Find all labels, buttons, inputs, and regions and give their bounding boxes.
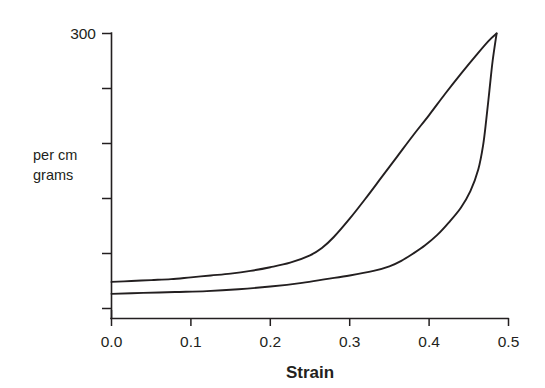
x-tick-label-0: 0.0 [101,333,123,350]
x-tick-label-3: 0.3 [339,333,361,350]
x-tick-label-4: 0.4 [418,333,440,350]
x-axis-title: Strain [286,363,334,382]
y-axis-title-line1: per cm [33,147,77,163]
y-tick-label-300: 300 [70,25,96,42]
chart-container: 300 per cm grams 0.0 0.1 0.2 0.3 0.4 0.5… [0,0,545,388]
x-tick-label-1: 0.1 [180,333,202,350]
curve-unloading [112,34,497,294]
y-axis-ticks [102,34,111,309]
x-tick-label-2: 0.2 [260,333,282,350]
y-axis-title-line2: grams [33,167,73,183]
x-tick-label-5: 0.5 [498,333,520,350]
curve-loading [112,34,497,282]
chart-plot-svg: 300 per cm grams 0.0 0.1 0.2 0.3 0.4 0.5… [0,0,545,388]
